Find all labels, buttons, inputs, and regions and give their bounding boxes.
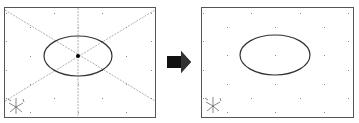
left-frame [5,8,156,118]
right-arrow-icon [167,51,191,73]
before-panel [0,0,359,123]
right-frame [202,8,354,118]
right-viewport [202,8,354,118]
center-point[interactable] [76,54,80,58]
left-viewport [5,8,156,118]
diagram-canvas [0,0,359,123]
